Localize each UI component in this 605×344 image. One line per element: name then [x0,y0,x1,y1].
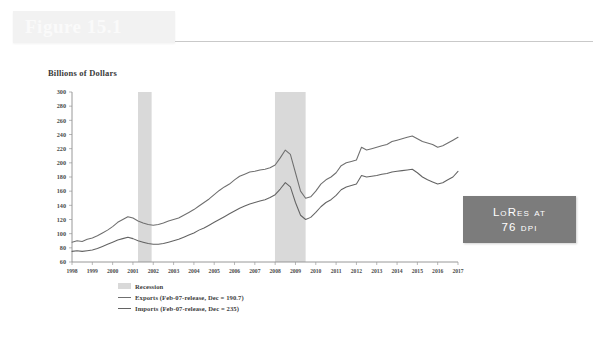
x-axis-tick-label: 2005 [209,268,220,274]
x-axis-tick-label: 2008 [270,268,281,274]
x-axis-tick-label: 2013 [371,268,382,274]
lores-badge-line1: LoRes at [493,205,546,220]
x-axis-tick-label: 1999 [87,268,98,274]
legend-label-imports: Imports (Feb-07-release, Dec = 235) [135,305,239,312]
imports-line-swatch-icon [118,308,131,309]
x-axis-tick-label: 2016 [432,268,443,274]
legend-item-recession: Recession [118,281,244,291]
y-axis-tick-label: 200 [57,159,66,166]
lores-badge-line2: 76 dpi [502,220,538,235]
x-axis-tick-label: 2004 [188,268,199,274]
x-axis-tick-label: 2010 [310,268,321,274]
y-axis-tick-label: 280 [57,102,66,109]
x-axis-tick-label: 2009 [290,268,301,274]
x-axis-tick-label: 2017 [452,268,463,274]
legend-item-exports: Exports (Feb-07-release, Dec = 190.7) [118,292,244,302]
legend-label-recession: Recession [135,283,163,290]
y-axis-tick-label: 300 [57,88,66,95]
series-line-exports [72,169,458,251]
x-axis-tick-label: 2002 [148,268,159,274]
y-axis-tick-label: 80 [60,244,66,251]
x-axis-tick-label: 2015 [412,268,423,274]
chart-legend: Recession Exports (Feb-07-release, Dec =… [118,281,244,314]
legend-label-exports: Exports (Feb-07-release, Dec = 190.7) [135,294,244,301]
y-axis-tick-label: 140 [57,202,66,209]
x-axis-tick-label: 2012 [351,268,362,274]
x-axis-tick-label: 1998 [66,268,77,274]
x-axis-tick-label: 2007 [249,268,260,274]
legend-item-imports: Imports (Feb-07-release, Dec = 235) [118,303,244,313]
recession-band [275,92,306,262]
lores-badge: LoRes at 76 dpi [463,196,576,243]
x-axis-tick-label: 2006 [229,268,240,274]
series-line-imports [72,136,458,242]
y-axis-tick-label: 120 [57,216,66,223]
figure-page: Figure 15.1 Billions of Dollars 30028026… [0,0,605,344]
recession-swatch-icon [118,283,131,289]
x-axis-tick-label: 2000 [107,268,118,274]
y-axis-tick-label: 100 [57,230,66,237]
y-axis-tick-label: 240 [57,131,66,138]
y-axis-tick-label: 160 [57,187,66,194]
y-axis-tick-label: 180 [57,173,66,180]
y-axis-tick-label: 60 [60,258,66,265]
line-chart: 3002802602402202001801601401201008060199… [0,0,605,344]
y-axis-tick-label: 260 [57,117,66,124]
x-axis-tick-label: 2003 [168,268,179,274]
x-axis-tick-label: 2014 [391,268,402,274]
x-axis-tick-label: 2011 [331,268,342,274]
x-axis-tick-label: 2001 [127,268,138,274]
y-axis-tick-label: 220 [57,145,66,152]
exports-line-swatch-icon [118,297,131,298]
recession-band [138,92,152,262]
